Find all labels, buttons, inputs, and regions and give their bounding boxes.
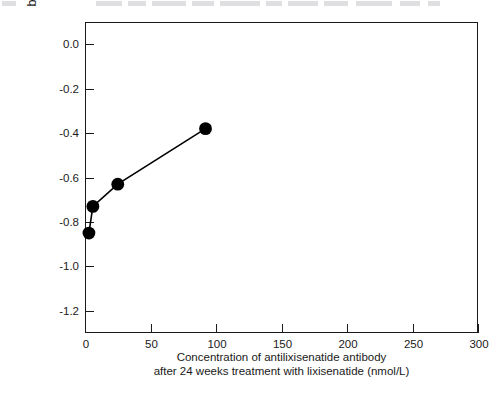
header-smudge — [96, 1, 122, 6]
x-tick-label: 150 — [273, 337, 292, 351]
header-smudge — [128, 1, 146, 6]
data-point — [86, 200, 99, 213]
header-smudge — [288, 1, 318, 6]
x-tick-label: 200 — [338, 337, 357, 351]
series-polyline — [89, 129, 206, 233]
x-axis-title-line2: after 24 weeks treatment with lixisenati… — [85, 364, 478, 378]
y-axis-title-line2: baseline in glycosylated hemoglobin — [24, 0, 40, 7]
y-tick-label: -1.0 — [59, 259, 79, 273]
series-markers — [83, 122, 212, 239]
data-point — [111, 178, 124, 191]
y-tick-label: -0.6 — [59, 171, 79, 185]
x-tick-label: 100 — [207, 337, 226, 351]
x-tick-label: 50 — [145, 337, 158, 351]
y-axis-title: Change from baseline in glycosylated hem… — [4, 0, 44, 62]
header-smudge — [356, 1, 392, 6]
header-smudge — [266, 1, 282, 6]
header-smudge — [152, 1, 186, 6]
header-smudge — [324, 1, 348, 6]
cropped-header-text — [0, 0, 502, 12]
y-tick-label: 0.0 — [63, 37, 79, 51]
data-point — [83, 227, 96, 240]
y-tick-label: -0.4 — [59, 126, 79, 140]
x-axis-title: Concentration of antilixisenatide antibo… — [85, 350, 478, 378]
header-smudge — [400, 1, 420, 6]
x-tick: 300 — [478, 324, 479, 333]
x-tick-label: 250 — [404, 337, 423, 351]
header-smudge — [428, 1, 440, 6]
plot-area: 0.0-0.2-0.4-0.6-0.8-1.0-1.2 050100150200… — [85, 22, 478, 333]
x-tick-label: 300 — [469, 337, 488, 351]
y-tick-label: -0.2 — [59, 82, 79, 96]
x-tick-label: 0 — [83, 337, 89, 351]
data-series-line — [85, 22, 478, 333]
y-axis-title-line1: Change from — [8, 0, 24, 7]
chart-figure: 0.0-0.2-0.4-0.6-0.8-1.0-1.2 050100150200… — [0, 0, 502, 394]
y-tick-label: -0.8 — [59, 215, 79, 229]
header-smudge — [220, 1, 260, 6]
header-smudge — [192, 1, 214, 6]
y-tick-label: -1.2 — [59, 304, 79, 318]
x-axis-title-line1: Concentration of antilixisenatide antibo… — [85, 350, 478, 364]
data-point — [199, 122, 212, 135]
